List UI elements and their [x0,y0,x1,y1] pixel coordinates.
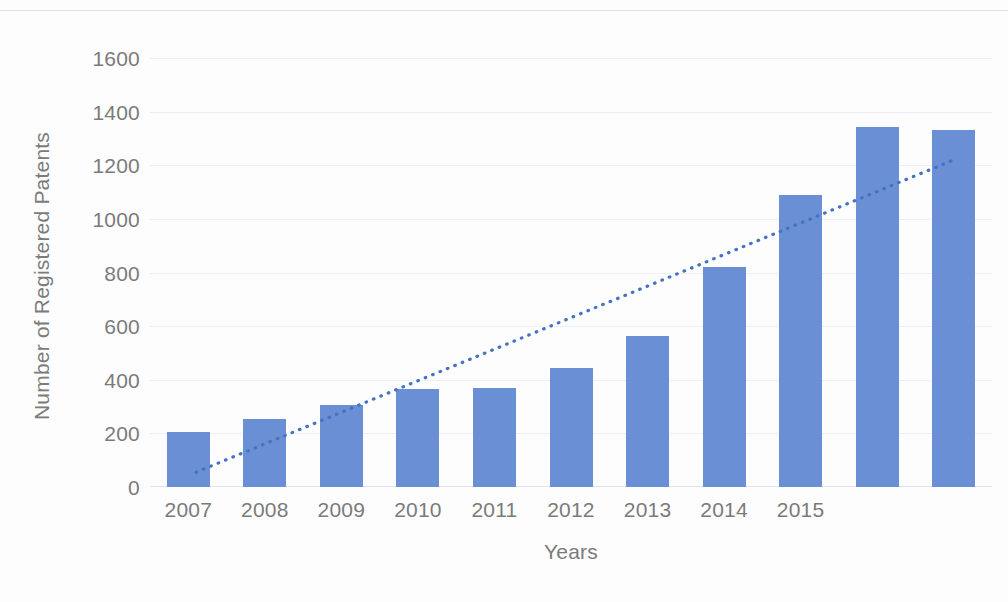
bar [626,336,669,487]
bar [243,419,286,487]
x-axis-tick-label: 2007 [148,498,228,521]
bar [473,388,516,487]
bar [167,432,210,487]
bar [779,195,822,487]
x-axis-tick-label: 2010 [378,498,458,521]
x-axis-tick-label: 2015 [761,498,841,521]
bar [320,405,363,487]
x-axis-tick-labels: 200720082009201020112012201320142015 [150,498,992,530]
bar [703,267,746,487]
chart-screenshot: 16001400120010008006004002000 2007200820… [0,0,1008,602]
bar [856,127,899,487]
bar [396,389,439,487]
y-axis-tick-label: 1600 [30,48,140,69]
x-axis-tick-label: 2013 [608,498,688,521]
x-axis-tick-label: 2008 [225,498,305,521]
x-axis-title: Years [150,540,992,564]
y-axis-tick-label: 0 [30,477,140,498]
x-axis-tick-label: 2012 [531,498,611,521]
bar [932,130,975,487]
plot-area [150,58,992,487]
x-axis-tick-label: 2009 [301,498,381,521]
x-axis-tick-label: 2014 [684,498,764,521]
bar-chart: 16001400120010008006004002000 2007200820… [0,0,1008,602]
bar-series [150,58,992,487]
x-axis-tick-label: 2011 [454,498,534,521]
bar [550,368,593,487]
y-axis-title: Number of Registered Patents [30,111,54,441]
